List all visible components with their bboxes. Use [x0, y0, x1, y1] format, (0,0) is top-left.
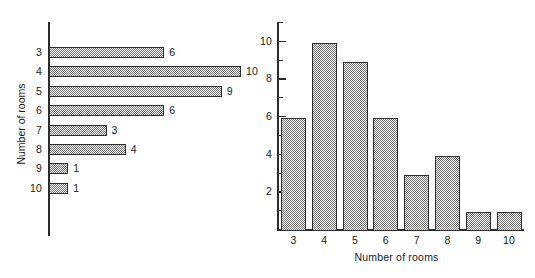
vertical-bar: [404, 175, 429, 231]
y-axis-major-tick: [278, 116, 286, 117]
left-chart-category-label: 7: [16, 125, 42, 136]
horizontal-bar: [49, 47, 164, 58]
figure-two-bar-charts: Number of rooms 364105966738491101 24681…: [0, 0, 535, 278]
horizontal-bar: [49, 105, 164, 116]
left-chart-category-label: 6: [16, 105, 42, 116]
horizontal-bar-value-label: 6: [169, 47, 175, 58]
x-axis-tick-label: 7: [399, 234, 434, 246]
horizontal-bar-value-label: 6: [169, 105, 175, 116]
y-axis-minor-tick: [278, 97, 283, 98]
horizontal-bar: [49, 183, 68, 194]
left-chart-category-label: 8: [16, 144, 42, 155]
y-axis-tick-label: 4: [250, 149, 272, 160]
vertical-bar: [373, 118, 398, 231]
horizontal-bar-value-label: 9: [227, 86, 233, 97]
horizontal-bar: [49, 144, 126, 155]
x-axis-tick-label: 10: [492, 234, 527, 246]
horizontal-bar-chart: Number of rooms 364105966738491101: [0, 0, 258, 278]
vertical-bar: [343, 62, 368, 231]
horizontal-bar: [49, 125, 107, 136]
horizontal-bar-value-label: 1: [73, 163, 79, 174]
left-chart-category-label: 9: [16, 163, 42, 174]
y-axis-minor-tick: [278, 22, 283, 23]
y-axis-major-tick: [278, 41, 286, 42]
x-axis-tick-label: 4: [307, 234, 342, 246]
left-chart-category-label: 4: [16, 66, 42, 77]
horizontal-bar: [49, 86, 222, 97]
y-axis-tick-label: 8: [250, 73, 272, 84]
y-axis-tick-label: 6: [250, 111, 272, 122]
vertical-bar: [435, 156, 460, 231]
horizontal-bar-value-label: 4: [131, 144, 137, 155]
vertical-bar: [466, 212, 491, 231]
x-axis-tick-label: 5: [338, 234, 373, 246]
horizontal-bar: [49, 163, 68, 174]
y-axis-tick-label: 10: [250, 36, 272, 47]
vertical-bar: [497, 212, 522, 231]
right-chart-y-axis: [277, 22, 279, 231]
vertical-bar-chart: 246810 345678910 Number of rooms: [258, 0, 535, 278]
left-chart-category-label: 3: [16, 47, 42, 58]
x-axis-tick-label: 9: [461, 234, 496, 246]
horizontal-bar-value-label: 3: [112, 125, 118, 136]
left-chart-category-label: 5: [16, 86, 42, 97]
y-axis-minor-tick: [278, 60, 283, 61]
horizontal-bar: [49, 66, 241, 77]
right-chart-axis-label: Number of rooms: [258, 251, 535, 263]
vertical-bar: [312, 43, 337, 231]
y-axis-major-tick: [278, 78, 286, 79]
x-axis-tick-label: 6: [368, 234, 403, 246]
horizontal-bar-value-label: 1: [73, 183, 79, 194]
x-axis-tick-label: 3: [276, 234, 311, 246]
left-chart-category-label: 10: [16, 183, 42, 194]
vertical-bar: [281, 118, 306, 231]
x-axis-tick-label: 8: [430, 234, 465, 246]
y-axis-tick-label: 2: [250, 186, 272, 197]
